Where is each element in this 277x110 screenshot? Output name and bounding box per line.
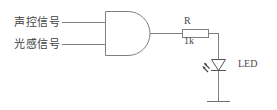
resistor-value-label: 1k [184, 36, 194, 46]
led-label: LED [238, 59, 257, 69]
input-label-light-sensor: 光感信号 [14, 39, 60, 50]
circuit-diagram: 声控信号 光感信号 R 1k LED [0, 0, 277, 110]
led-emission-arrows [203, 63, 210, 72]
resistor-to-led-wire [209, 34, 219, 60]
resistor-designator-label: R [184, 16, 191, 26]
and-gate-symbol [106, 12, 151, 56]
input-label-sound-control: 声控信号 [14, 17, 60, 28]
led-symbol [203, 60, 227, 73]
